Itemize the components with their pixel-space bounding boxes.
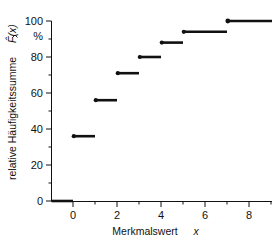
x-axis-title-symbol: x xyxy=(192,225,199,237)
x-tick-label-2: 2 xyxy=(114,209,120,221)
step-marker-3 xyxy=(138,55,142,59)
step-marker-0 xyxy=(72,134,76,138)
y-tick-label-80: 80 xyxy=(31,51,43,63)
y-axis-title: relative Häufigkeitssumme xyxy=(6,57,18,180)
x-axis-major-ticks xyxy=(73,202,249,208)
step-chart-svg: 100 80 60 40 20 0 % 0 2 4 6 8 Merkmalswe… xyxy=(0,0,280,241)
chart-figure: 100 80 60 40 20 0 % 0 2 4 6 8 Merkmalswe… xyxy=(0,0,280,241)
y-axis-title-symbol: F̂(x) xyxy=(5,24,18,43)
x-axis-title: Merkmalswert xyxy=(112,225,177,237)
x-tick-label-4: 4 xyxy=(158,209,164,221)
y-tick-label-100: 100 xyxy=(25,15,43,27)
y-tick-label-60: 60 xyxy=(31,87,43,99)
y-tick-label-0: 0 xyxy=(37,195,43,207)
step-marker-1 xyxy=(94,98,98,102)
x-tick-label-6: 6 xyxy=(202,209,208,221)
step-marker-5 xyxy=(182,30,186,34)
y-tick-label-20: 20 xyxy=(31,159,43,171)
x-tick-label-8: 8 xyxy=(246,209,252,221)
y-axis-unit-label: % xyxy=(33,30,43,42)
step-marker-2 xyxy=(116,71,120,75)
step-function-series xyxy=(52,19,273,201)
step-marker-6 xyxy=(225,19,230,24)
y-tick-label-40: 40 xyxy=(31,123,43,135)
x-tick-label-0: 0 xyxy=(70,209,76,221)
step-marker-4 xyxy=(160,41,164,45)
